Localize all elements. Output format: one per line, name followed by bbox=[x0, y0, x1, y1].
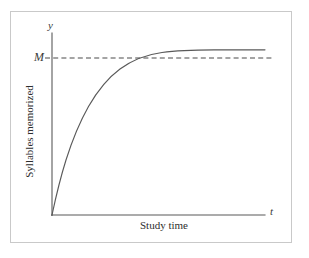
y-axis-title: Syllables memorized bbox=[24, 77, 35, 187]
x-axis-title: Study time bbox=[118, 220, 210, 231]
y-axis-variable-label: y bbox=[48, 20, 53, 31]
asymptote-value-label: M bbox=[34, 51, 44, 63]
learning-curve-path bbox=[52, 50, 265, 215]
x-axis-variable-label: t bbox=[270, 206, 273, 217]
figure-container: y t M Study time Syllables memorized bbox=[0, 0, 309, 258]
